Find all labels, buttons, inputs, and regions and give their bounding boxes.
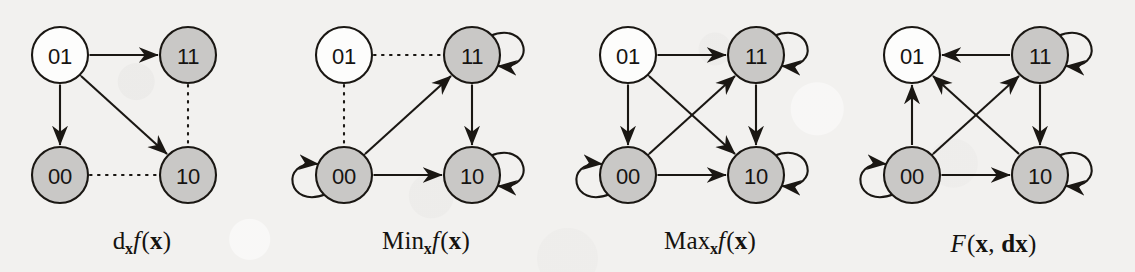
panel-caption-Fxdx: F(x, dx) [852,230,1135,258]
panel-Fxdx: 01 11 00 10 F(x, dx) [852,0,1135,272]
panel-maxxf-graph: 01 11 00 10 [568,0,852,215]
panel-minxf: 01 11 00 10 Minxf(x) [284,0,568,272]
node-label-01: 01 [900,44,924,69]
node-label-01: 01 [48,44,72,69]
node-label-00: 00 [48,164,72,189]
node-label-11: 11 [1029,44,1051,69]
caption-sub-x: x [125,240,133,257]
caption-paren-close: ) [461,227,470,254]
caption-F: F [951,230,966,257]
caption-bold-x: x [449,227,462,254]
caption-bold-dx: dx [1001,230,1028,257]
panel-minxf-graph: 01 11 00 10 [284,0,568,215]
panel-dxf-graph: 01 11 00 10 [0,0,284,215]
caption-paren-open: ( [726,227,735,254]
caption-paren-close: ) [163,227,172,254]
caption-f: f [133,227,140,254]
node-label-10: 10 [176,164,200,189]
node-label-10: 10 [460,164,484,189]
node-label-11: 11 [745,44,767,69]
caption-bold-x: x [150,227,163,254]
edge-00-11 [365,76,451,154]
caption-min: Min [382,227,424,254]
caption-paren-open: ( [440,227,449,254]
caption-sub-x: x [710,240,718,257]
node-label-00: 00 [616,164,640,189]
panel-caption-dxf: dxf(x) [0,227,284,258]
caption-paren-open: ( [967,230,976,257]
caption-f: f [718,227,725,254]
node-label-11: 11 [461,44,483,69]
panel-maxxf: 01 11 00 10 Maxxf(x) [568,0,852,272]
node-label-00: 00 [332,164,356,189]
panel-caption-maxxf: Maxxf(x) [568,227,852,258]
edge-01-10 [81,76,167,154]
node-label-01: 01 [616,44,640,69]
node-label-11: 11 [177,44,199,69]
caption-sub-x: x [424,240,432,257]
node-label-10: 10 [744,164,768,189]
panel-Fxdx-graph: 01 11 00 10 [852,0,1135,215]
caption-comma: , [988,230,1001,257]
node-label-01: 01 [332,44,356,69]
caption-paren-close: ) [748,227,757,254]
caption-d: d [113,227,126,254]
caption-bold-x: x [976,230,989,257]
caption-paren-close: ) [1028,230,1037,257]
caption-paren-open: ( [141,227,150,254]
node-label-00: 00 [900,164,924,189]
panel-dxf: 01 11 00 10 dxf(x) [0,0,284,272]
caption-f: f [432,227,439,254]
node-label-10: 10 [1028,164,1052,189]
caption-max: Max [664,227,710,254]
caption-bold-x: x [735,227,748,254]
state-transition-diagram-figure: 01 11 00 10 dxf(x) [0,0,1135,272]
panel-caption-minxf: Minxf(x) [284,227,568,258]
